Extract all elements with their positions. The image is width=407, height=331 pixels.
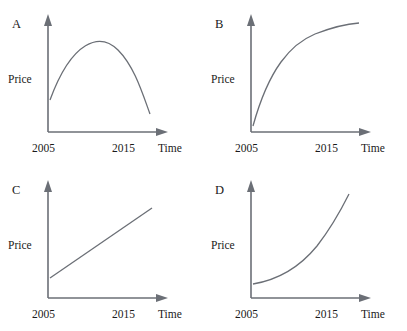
x-tick-start-c: 2005 — [32, 308, 55, 320]
x-tick-start-a: 2005 — [32, 142, 55, 154]
x-tick-start-d: 2005 — [235, 308, 258, 320]
y-axis-label-b: Price — [211, 73, 235, 85]
chart-svg-c: C Price 2005 2015 Time — [0, 168, 200, 331]
chart-panel-a: A Price 2005 2015 Time — [0, 2, 200, 167]
y-axis-arrow-icon — [247, 180, 255, 192]
panel-letter-a: A — [12, 17, 21, 31]
x-axis-label-b: Time — [361, 142, 385, 154]
y-axis-label-d: Price — [211, 239, 235, 251]
y-axis-arrow-icon — [247, 14, 255, 26]
y-axis-arrow-icon — [44, 14, 52, 26]
y-axis-label-c: Price — [8, 239, 32, 251]
x-axis-arrow-icon — [156, 128, 168, 136]
chart-svg-b: B Price 2005 2015 Time — [203, 2, 403, 167]
x-tick-end-b: 2015 — [315, 142, 338, 154]
chart-svg-a: A Price 2005 2015 Time — [0, 2, 200, 167]
figure-container: A Price 2005 2015 Time B Price 2005 2015… — [0, 0, 407, 331]
x-axis-arrow-icon — [359, 294, 371, 302]
panel-letter-d: D — [215, 183, 224, 197]
chart-panel-b: B Price 2005 2015 Time — [203, 2, 403, 167]
data-curve — [253, 194, 349, 284]
data-curve — [50, 42, 150, 114]
chart-svg-d: D Price 2005 2015 Time — [203, 168, 403, 331]
x-tick-end-c: 2015 — [112, 308, 135, 320]
chart-panel-c: C Price 2005 2015 Time — [0, 168, 200, 331]
y-axis-arrow-icon — [44, 180, 52, 192]
data-curve — [253, 23, 359, 126]
x-axis-label-d: Time — [361, 308, 385, 320]
data-curve — [50, 208, 152, 278]
panel-letter-c: C — [12, 183, 20, 197]
chart-panel-d: D Price 2005 2015 Time — [203, 168, 403, 331]
x-axis-arrow-icon — [156, 294, 168, 302]
x-axis-label-a: Time — [158, 142, 182, 154]
x-tick-start-b: 2005 — [235, 142, 258, 154]
x-tick-end-a: 2015 — [112, 142, 135, 154]
x-axis-arrow-icon — [359, 128, 371, 136]
panel-letter-b: B — [215, 17, 223, 31]
y-axis-label-a: Price — [8, 73, 32, 85]
x-axis-label-c: Time — [158, 308, 182, 320]
x-tick-end-d: 2015 — [315, 308, 338, 320]
